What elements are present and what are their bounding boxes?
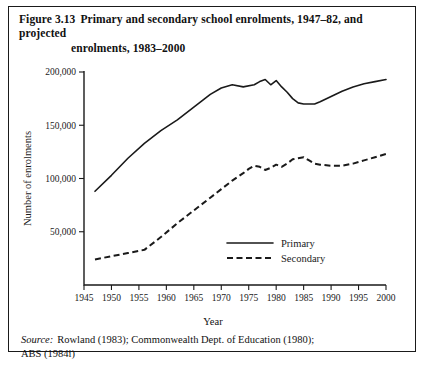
x-axis-tick-label: 1985 bbox=[294, 293, 313, 303]
y-axis-tick-label: 150,000 bbox=[45, 121, 76, 131]
x-axis-tick-label: 1955 bbox=[129, 293, 148, 303]
figure-number: Figure 3.13 bbox=[19, 13, 75, 25]
x-axis-tick-label: 1965 bbox=[184, 293, 203, 303]
x-axis-tick-label: 1995 bbox=[349, 293, 368, 303]
x-axis-tick-label: 1960 bbox=[157, 293, 176, 303]
x-axis-tick-label: 1970 bbox=[212, 293, 231, 303]
x-axis-tick-label: 1975 bbox=[239, 293, 258, 303]
x-axis-tick-label: 1980 bbox=[267, 293, 286, 303]
x-axis-tick-label: 1990 bbox=[322, 293, 341, 303]
y-axis-title: Number of enrolments bbox=[22, 131, 33, 226]
x-axis-tick-label: 2000 bbox=[377, 293, 396, 303]
x-axis-title: Year bbox=[9, 316, 417, 327]
source-line1: Rowland (1983); Commonwealth Dept. of Ed… bbox=[57, 334, 314, 345]
source-label: Source: bbox=[21, 334, 53, 345]
legend-label-primary: Primary bbox=[281, 238, 316, 249]
source-line2: ABS (1984i) bbox=[21, 348, 75, 359]
enrolments-line-chart: 50,000100,000150,000200,0001945195019551… bbox=[9, 47, 415, 307]
figure-container: Figure 3.13Primary and secondary school … bbox=[8, 6, 416, 352]
x-axis-tick-label: 1950 bbox=[102, 293, 121, 303]
x-axis-tick-label: 1945 bbox=[75, 293, 94, 303]
y-axis-tick-label: 100,000 bbox=[45, 174, 76, 184]
legend-label-secondary: Secondary bbox=[281, 253, 326, 264]
chart-plot-area: 50,000100,000150,000200,0001945195019551… bbox=[9, 47, 415, 307]
y-axis-tick-label: 50,000 bbox=[50, 227, 76, 237]
source-note: Source:Rowland (1983); Commonwealth Dept… bbox=[21, 333, 406, 360]
y-axis-tick-label: 200,000 bbox=[45, 67, 76, 77]
